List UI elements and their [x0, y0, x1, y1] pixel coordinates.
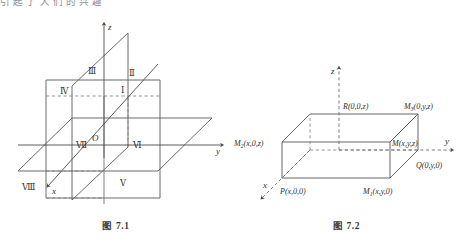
point-M1-label: M1(x,y,0)	[362, 187, 393, 197]
octant-4: Ⅳ	[60, 86, 69, 96]
point-P-coords: (x,0,0)	[285, 187, 306, 196]
dashed-construction-lines	[46, 96, 160, 198]
figure-page: 引 起 了 人 们 的 兴 趣	[0, 0, 461, 242]
octant-1: Ⅰ	[121, 85, 124, 95]
octant-7: Ⅶ	[75, 140, 87, 150]
point-M1-coords: (x,y,0)	[372, 187, 392, 196]
x-axis-label: x	[262, 180, 267, 190]
octant-5: Ⅴ	[119, 178, 127, 188]
point-R-label: R(0,0,z)	[342, 102, 369, 111]
octant-8: Ⅷ	[21, 182, 35, 192]
point-Q-coords: (0,y,0)	[422, 161, 443, 170]
octant-2: Ⅱ	[129, 68, 135, 78]
point-M-label: M(x,y,z)	[391, 139, 418, 148]
z-axis-label: z	[330, 66, 335, 76]
point-M2-label: M2(x,0,z)	[233, 139, 264, 149]
point-P-label: P(x,0,0)	[279, 187, 306, 196]
octant-6: Ⅵ	[132, 140, 142, 150]
octant-3: Ⅲ	[88, 66, 96, 76]
point-Q-label: Q(0,y,0)	[416, 161, 443, 170]
x-axis-label: x	[51, 186, 56, 196]
figure-7-2-drawing: z y x R(0,0,z) M3(0,y,z) M2(x,0,z) M(x,y…	[232, 8, 461, 218]
figure-7-1-drawing: z y x O Ⅰ Ⅱ Ⅲ Ⅳ Ⅴ Ⅵ Ⅶ Ⅷ	[0, 8, 232, 218]
origin-label: O	[92, 133, 99, 143]
figure-7-2-caption: 图 7.2	[232, 218, 461, 232]
xoy-plane	[18, 118, 212, 171]
point-M3-coords: (0,y,z)	[413, 102, 433, 111]
point-R-coords: (0,0,z)	[348, 102, 369, 111]
point-M-coords: (x,y,z)	[399, 139, 418, 148]
figure-7-1-caption: 图 7.1	[0, 218, 232, 232]
figure-7-2: z y x R(0,0,z) M3(0,y,z) M2(x,0,z) M(x,y…	[232, 8, 461, 242]
yoz-plane	[72, 33, 128, 200]
point-M3-label: M3(0,y,z)	[403, 102, 433, 112]
point-M2-coords: (x,0,z)	[243, 139, 263, 148]
xoz-plane	[46, 80, 160, 198]
clipped-header-text: 引 起 了 人 们 的 兴 趣	[0, 0, 160, 8]
figure-7-1: z y x O Ⅰ Ⅱ Ⅲ Ⅳ Ⅴ Ⅵ Ⅶ Ⅷ	[0, 8, 232, 242]
y-axis-label: y	[215, 146, 220, 156]
y-axis-label: y	[444, 136, 449, 146]
z-axis-label: z	[107, 22, 112, 32]
